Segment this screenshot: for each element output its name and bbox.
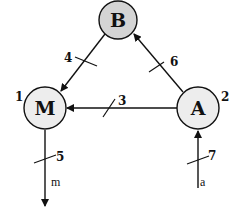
edge-a-to-b: 6 (134, 34, 183, 92)
edge-b-to-m: 4 (61, 34, 105, 91)
input-signal-a: a (200, 175, 206, 189)
node-b: B (99, 1, 137, 39)
node-a-label: A (190, 97, 206, 119)
edge-label-5: 5 (56, 150, 64, 164)
edge-label-7: 7 (208, 149, 216, 163)
node-m-number: 1 (15, 90, 23, 104)
node-a: A 2 (177, 87, 229, 129)
edge-a-to-m: 3 (67, 94, 177, 117)
node-m-label: M (34, 97, 55, 119)
output-signal-m: m (51, 175, 61, 189)
node-m: M 1 (15, 87, 66, 129)
edge-m-output: 5 m (34, 130, 64, 206)
node-b-label: B (110, 9, 126, 31)
node-a-number: 2 (221, 90, 229, 104)
signal-flow-diagram: 4 6 3 5 m 7 a B M 1 A 2 (0, 0, 238, 212)
edge-label-3: 3 (118, 94, 126, 108)
edge-label-6: 6 (170, 55, 178, 69)
edge-label-4: 4 (64, 51, 72, 65)
edge-a-input: 7 a (187, 131, 216, 189)
